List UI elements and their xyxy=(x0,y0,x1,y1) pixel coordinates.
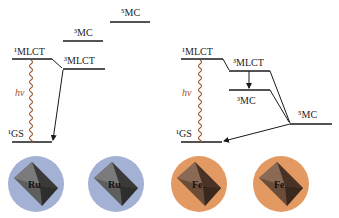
fe-hv-label: hv xyxy=(182,87,192,98)
fe-energy-diagram: ¹MLCT ³MLCT ³MC ⁵MC ¹GS hv xyxy=(176,46,332,142)
fe-complex-1: Fe xyxy=(171,156,227,212)
fe-1gs-label: ¹GS xyxy=(176,128,192,139)
ru-5mc-label: ⁵MC xyxy=(121,7,140,18)
ru-hv-label: hv xyxy=(15,87,25,98)
ru-metal-label: Ru xyxy=(28,179,41,190)
fe-complex-2: Fe xyxy=(253,156,309,212)
fe-5mc-to-gs-arrow xyxy=(224,124,290,141)
ru-isc-connector xyxy=(52,59,62,68)
ru-3mlct-label: ³MLCT xyxy=(64,55,95,66)
ru-complex-2: Ru xyxy=(88,156,144,212)
energy-level-diagram: ¹MLCT ³MLCT ³MC ⁵MC ¹GS hv ¹MLCT ³MLCT ³… xyxy=(0,0,339,218)
ru-metal-label: Ru xyxy=(108,179,121,190)
fe-3mlct-to-5mc-line xyxy=(270,71,290,123)
ru-decay-arrow xyxy=(53,70,63,140)
ru-excitation-wavy-line xyxy=(30,60,33,142)
fe-isc-connector xyxy=(223,59,229,70)
fe-3mc-label: ³MC xyxy=(237,95,256,106)
fe-3mlct-label: ³MLCT xyxy=(233,57,264,68)
ru-3mc-label: ³MC xyxy=(74,27,93,38)
fe-1mlct-label: ¹MLCT xyxy=(182,46,213,57)
ru-1gs-label: ¹GS xyxy=(8,128,24,139)
fe-5mc-label: ⁵MC xyxy=(298,109,317,120)
ru-complex-1: Ru xyxy=(8,156,64,212)
ru-1mlct-label: ¹MLCT xyxy=(14,46,45,57)
ru-energy-diagram: ¹MLCT ³MLCT ³MC ⁵MC ¹GS hv xyxy=(8,7,150,142)
fe-excitation-wavy-line xyxy=(199,60,202,142)
fe-metal-label: Fe xyxy=(274,179,285,190)
fe-metal-label: Fe xyxy=(192,179,203,190)
